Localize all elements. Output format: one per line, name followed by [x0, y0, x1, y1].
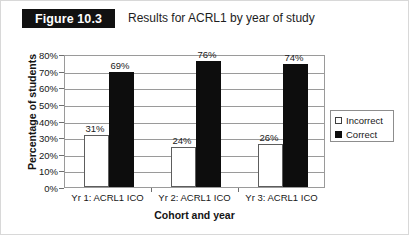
- bar-value-label: 76%: [197, 49, 216, 60]
- y-axis-tick-mark: [59, 188, 64, 189]
- bar-value-label: 69%: [110, 60, 129, 71]
- legend-item-incorrect: Incorrect: [335, 114, 389, 126]
- bar-incorrect-group-1: [84, 135, 109, 187]
- bar-correct-group-2: [196, 61, 221, 187]
- bar-incorrect-group-2: [171, 147, 196, 187]
- x-axis-category-label: Yr 3: ACRL1 ICO: [245, 192, 317, 203]
- x-axis-tick-mark: [151, 188, 152, 192]
- plot-inner: [65, 56, 324, 187]
- bar-value-label: 31%: [85, 123, 104, 134]
- x-axis-category-label: Yr 1: ACRL1 ICO: [71, 192, 143, 203]
- bar-correct-group-1: [109, 72, 134, 187]
- figure-header: Figure 10.3 Results for ACRL1 by year of…: [0, 0, 410, 38]
- x-axis-category-labels: Yr 1: ACRL1 ICOYr 2: ACRL1 ICOYr 3: ACRL…: [64, 192, 325, 208]
- x-axis-category-label: Yr 2: ACRL1 ICO: [158, 192, 230, 203]
- hollow-square-icon: [335, 117, 342, 124]
- bar-value-label: 24%: [172, 135, 191, 146]
- bar-value-label: 26%: [259, 132, 278, 143]
- filled-square-icon: [335, 131, 342, 138]
- x-axis-tick-mark: [238, 188, 239, 192]
- legend-label: Incorrect: [346, 115, 383, 126]
- bar-correct-group-3: [283, 64, 308, 187]
- chart-region: Percentage of students 80%70%60%50%40%30…: [0, 38, 410, 236]
- chart-legend: IncorrectCorrect: [330, 110, 394, 142]
- legend-label: Correct: [346, 129, 377, 140]
- x-axis-title: Cohort and year: [64, 209, 325, 221]
- plot-area: [64, 55, 325, 188]
- bar-incorrect-group-3: [258, 144, 283, 187]
- legend-item-correct: Correct: [335, 128, 389, 140]
- bar-value-label: 74%: [284, 52, 303, 63]
- figure-title: Results for ACRL1 by year of study: [128, 11, 315, 25]
- figure-number-badge: Figure 10.3: [22, 9, 115, 28]
- y-axis-tick-marks: [0, 55, 64, 188]
